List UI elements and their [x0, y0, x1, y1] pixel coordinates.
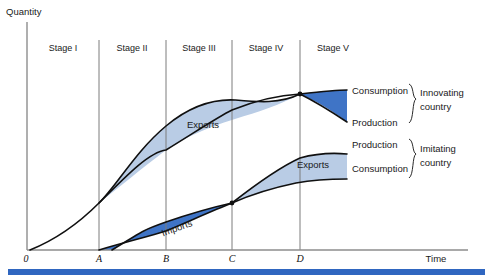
legend-group-innovating-line2: country [420, 101, 451, 112]
y-axis-title: Quantity [6, 6, 42, 17]
region-label-exports-innovating: Exports [187, 119, 219, 130]
x-axis-title: Time [426, 253, 447, 264]
legend-brace-innovating [409, 84, 416, 123]
legend-imitating-consumption: Consumption [352, 163, 408, 174]
stage-label-3: Stage III [182, 43, 216, 53]
legend-group-imitating-line1: Imitating [420, 143, 456, 154]
stage-label-2: Stage II [116, 43, 147, 53]
x-tick-b: B [163, 253, 169, 264]
figure-page: Quantity Time 0 A B C D Stage I Stage II… [0, 0, 485, 278]
stage-label-5: Stage V [317, 43, 349, 53]
region-label-exports-imitating: Exports [297, 159, 329, 170]
stage-dividers [99, 40, 300, 250]
curve-imitating-consumption [99, 179, 347, 250]
legend-group-innovating-line1: Innovating [420, 87, 464, 98]
x-tick-c: C [229, 253, 236, 264]
x-tick-d: D [295, 253, 304, 264]
accent-bar [8, 269, 485, 275]
stage-label-4: Stage IV [249, 43, 284, 53]
product-life-cycle-diagram: Quantity Time 0 A B C D Stage I Stage II… [0, 0, 485, 278]
legend-imitating-production: Production [352, 139, 397, 150]
legend-group-imitating-line2: country [420, 157, 451, 168]
legend-innovating-consumption: Consumption [352, 85, 408, 96]
x-tick-a: A [95, 253, 103, 264]
stage-label-1: Stage I [49, 43, 78, 53]
x-tick-origin: 0 [24, 253, 29, 264]
legend-innovating-production: Production [352, 117, 397, 128]
intersection-dot-c [230, 201, 235, 206]
intersection-dot-d [298, 92, 303, 97]
legend-brace-imitating [409, 139, 416, 178]
